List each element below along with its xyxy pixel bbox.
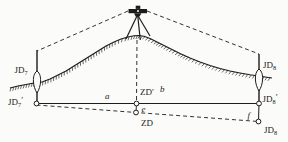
theodolite-lens	[137, 10, 139, 12]
point-jd7-prime	[34, 101, 39, 106]
survey-diagram-canvas: JD7 JD7′ ZD′ ZD JD8 JD8′ JD8 a b e f	[0, 0, 288, 142]
label-jd8-prime: JD8′	[263, 92, 278, 104]
label-zd: ZD	[141, 118, 153, 128]
label-distance-b: b	[160, 84, 165, 94]
label-jd7: JD7	[15, 65, 28, 76]
point-zd	[134, 110, 139, 115]
label-offset-e: e	[142, 104, 146, 114]
point-jd8	[256, 119, 261, 124]
theodolite-icon	[126, 6, 150, 40]
right-pole-bob	[255, 69, 262, 91]
point-jd8-prime	[257, 101, 262, 106]
point-zd-prime	[134, 101, 139, 106]
sight-line-right	[147, 11, 259, 54]
label-jd8-bottom: JD8	[264, 125, 277, 136]
label-jd7-prime: JD7′	[8, 95, 23, 107]
label-zd-prime: ZD′	[140, 87, 154, 97]
hill-terrain-line	[10, 36, 272, 89]
sight-lines	[37, 11, 260, 122]
label-jd8-top: JD8	[263, 60, 276, 71]
terrain-hachure-strokes	[10, 36, 270, 92]
survey-diagram: JD7 JD7′ ZD′ ZD JD8 JD8′ JD8 a b e f	[0, 0, 288, 142]
sight-line-left	[37, 11, 128, 51]
label-offset-f: f	[248, 110, 252, 120]
theodolite-knob	[136, 6, 141, 9]
plumb-line-center	[137, 40, 138, 101]
label-distance-a: a	[105, 91, 110, 101]
left-pole-bob	[33, 71, 40, 93]
